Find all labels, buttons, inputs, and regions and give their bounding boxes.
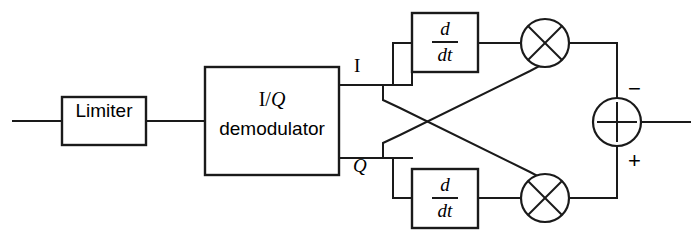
- differentiator-top-numerator: d: [412, 19, 478, 39]
- limiter-label: Limiter: [62, 101, 146, 120]
- differentiator-bottom-fraction-bar: [432, 197, 458, 199]
- differentiator-bottom-fraction: d dt: [412, 175, 478, 221]
- summer-plus-sign: +: [628, 150, 641, 172]
- differentiator-bottom-denominator: dt: [412, 201, 478, 221]
- wire-multiplier-bottom-to-summer: [569, 146, 617, 198]
- demodulator-label-line2: demodulator: [205, 119, 339, 138]
- demodulator-label-line1: I/Q: [205, 89, 339, 109]
- diagram-canvas: [0, 0, 699, 244]
- differentiator-top-fraction-bar: [432, 41, 458, 43]
- summer-minus-sign: −: [628, 78, 641, 100]
- signal-label-i: I: [354, 56, 360, 75]
- block-diagram: Limiter I/Q demodulator I Q d dt d dt − …: [0, 0, 699, 244]
- demodulator-label-q: Q: [271, 88, 285, 110]
- wire-multiplier-top-to-summer: [569, 43, 617, 98]
- differentiator-top-denominator: dt: [412, 45, 478, 65]
- differentiator-top-fraction: d dt: [412, 19, 478, 65]
- differentiator-bottom-numerator: d: [412, 175, 478, 195]
- signal-label-q: Q: [353, 156, 367, 175]
